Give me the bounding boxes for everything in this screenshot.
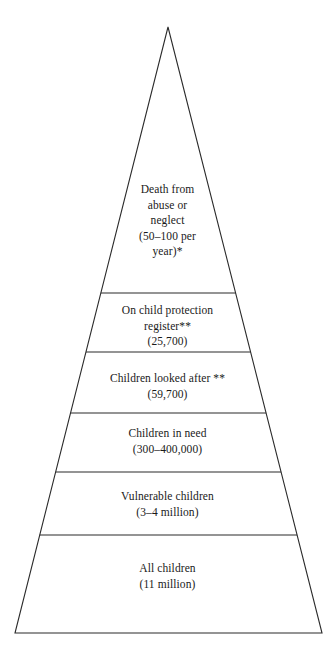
tier-children-in-need-label: Children in need(300–400,000) (0, 426, 335, 457)
tier-children-looked-after-line-1: Children looked after ** (0, 371, 335, 387)
tier-death-from-abuse-or-neglect-line-3: neglect (0, 213, 335, 229)
tier-children-in-need-line-1: Children in need (0, 426, 335, 442)
tier-vulnerable-children-label: Vulnerable children(3–4 million) (0, 489, 335, 520)
child-welfare-pyramid-diagram: Death fromabuse orneglect(50–100 peryear… (0, 0, 335, 654)
tier-on-child-protection-register-line-3: (25,700) (0, 334, 335, 350)
tier-on-child-protection-register-line-1: On child protection (0, 303, 335, 319)
tier-death-from-abuse-or-neglect-line-1: Death from (0, 182, 335, 198)
tier-children-looked-after-line-2: (59,700) (0, 387, 335, 403)
tier-all-children-line-2: (11 million) (0, 577, 335, 593)
tier-on-child-protection-register-label: On child protectionregister**(25,700) (0, 303, 335, 350)
tier-vulnerable-children-line-1: Vulnerable children (0, 489, 335, 505)
tier-death-from-abuse-or-neglect-line-2: abuse or (0, 198, 335, 214)
tier-death-from-abuse-or-neglect-label: Death fromabuse orneglect(50–100 peryear… (0, 182, 335, 260)
tier-on-child-protection-register-line-2: register** (0, 319, 335, 335)
tier-death-from-abuse-or-neglect-line-4: (50–100 per (0, 229, 335, 245)
tier-vulnerable-children-line-2: (3–4 million) (0, 505, 335, 521)
tier-all-children-line-1: All children (0, 561, 335, 577)
tier-all-children-label: All children(11 million) (0, 561, 335, 592)
tier-children-looked-after-label: Children looked after **(59,700) (0, 371, 335, 402)
tier-death-from-abuse-or-neglect-line-5: year)* (0, 244, 335, 260)
tier-children-in-need-line-2: (300–400,000) (0, 442, 335, 458)
